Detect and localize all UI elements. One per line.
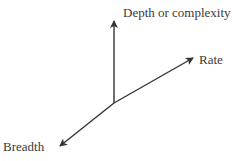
breadth-axis-arrow	[60, 103, 114, 146]
depth-axis-label: Depth or complexity	[123, 6, 231, 19]
breadth-axis-label: Breadth	[3, 140, 44, 153]
three-axis-diagram: Depth or complexity Rate Breadth	[0, 0, 248, 161]
rate-axis-arrow	[114, 58, 193, 103]
axes-graphic	[0, 0, 248, 161]
rate-axis-label: Rate	[199, 53, 223, 66]
